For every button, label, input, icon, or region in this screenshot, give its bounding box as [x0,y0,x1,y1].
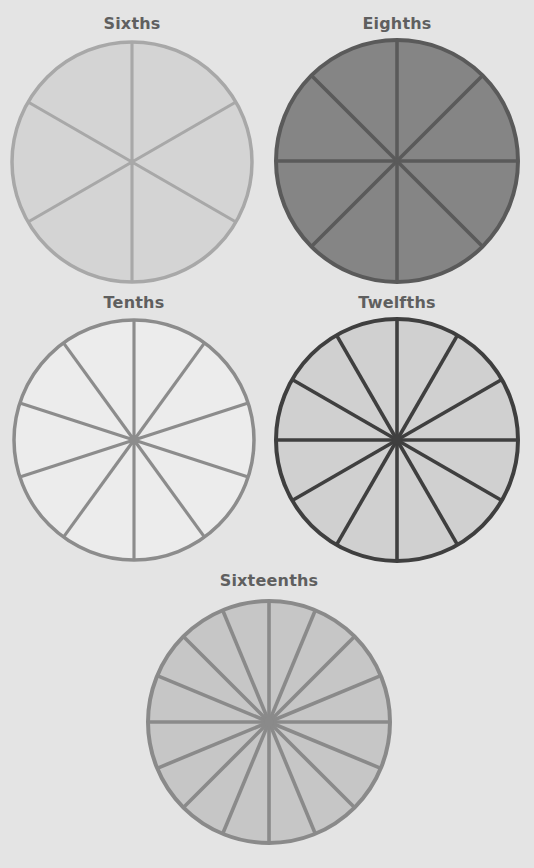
pie-sixths [6,36,258,288]
title-eighths: Eighths [297,14,497,33]
center-hub [394,158,400,164]
center-hub [129,159,135,165]
pie-twelfths [270,313,524,567]
pie-sixteenths [142,595,396,849]
title-sixteenths: Sixteenths [169,571,369,590]
pie-tenths [8,314,260,566]
center-hub [264,717,274,727]
title-sixths: Sixths [32,14,232,33]
pie-eighths [270,34,524,288]
title-twelfths: Twelfths [297,293,497,312]
title-tenths: Tenths [34,293,234,312]
center-hub [129,435,139,445]
center-hub [392,435,402,445]
